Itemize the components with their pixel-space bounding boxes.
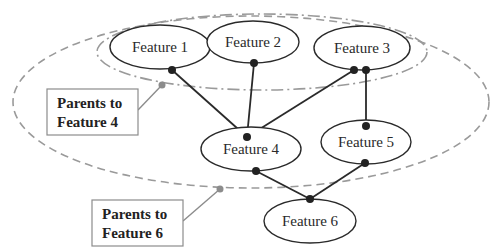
callout-line-feature-6 xyxy=(183,189,220,221)
box-label-line2: Feature 6 xyxy=(102,225,163,241)
label-box-parents-feature-6: Parents to Feature 6 xyxy=(92,200,183,246)
node-feature-2: Feature 2 xyxy=(207,21,299,63)
node-label: Feature 3 xyxy=(334,40,390,56)
node-feature-6: Feature 6 xyxy=(264,199,356,243)
box-label-line2: Feature 4 xyxy=(57,114,118,130)
node-label: Feature 5 xyxy=(338,134,394,150)
edge-f5-f6 xyxy=(310,163,365,199)
feature-dependency-diagram: Feature 1 Feature 2 Feature 3 Feature 4 … xyxy=(0,0,503,252)
node-label: Feature 2 xyxy=(225,34,281,50)
edge-f4-f6 xyxy=(256,171,310,199)
box-label-line1: Parents to xyxy=(102,206,167,222)
edge-f1-f4 xyxy=(172,70,247,137)
node-label: Feature 6 xyxy=(282,213,339,229)
box-label-line1: Parents to xyxy=(57,95,122,111)
callout-line-feature-4 xyxy=(138,85,162,110)
node-feature-4: Feature 4 xyxy=(201,127,301,171)
label-box-parents-feature-4: Parents to Feature 4 xyxy=(47,89,138,135)
node-feature-1: Feature 1 xyxy=(110,25,210,69)
node-label: Feature 4 xyxy=(223,141,280,157)
node-feature-3: Feature 3 xyxy=(314,26,410,70)
node-label: Feature 1 xyxy=(132,39,188,55)
callout-dot-feature-4 xyxy=(159,82,166,89)
edge-f2-f4 xyxy=(247,63,254,137)
callout-dot-feature-6 xyxy=(217,186,224,193)
